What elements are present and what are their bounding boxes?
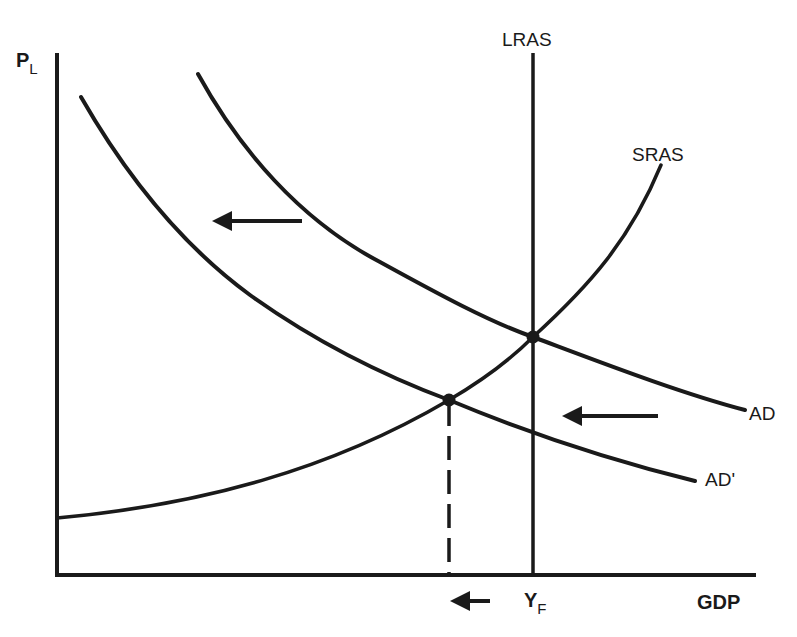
y-axis-label-sub: L [29,60,37,77]
initial-equilibrium-point [527,331,540,344]
full-employment-output-label: YF [524,590,547,610]
ad-curve [198,74,745,410]
y-axis-label-main: P [16,49,29,71]
ad-prime-curve [81,97,695,481]
ad-as-diagram [0,0,797,637]
yf-main: Y [524,589,537,611]
y-axis-label: PL [16,50,38,70]
lras-label: LRAS [502,30,552,49]
ad-prime-label: AD' [705,470,735,489]
new-equilibrium-point [443,394,456,407]
ad-label: AD [749,404,775,423]
sras-label: SRAS [632,145,684,164]
yf-sub: F [537,600,546,617]
x-axis-label: GDP [697,592,740,612]
sras-curve [57,165,661,518]
